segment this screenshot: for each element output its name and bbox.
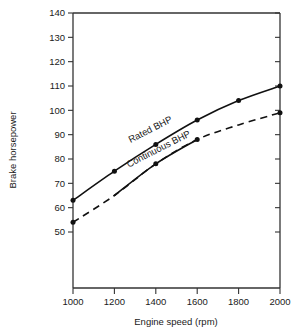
- chart-container: 5060708090100110120130140 10001200140016…: [0, 0, 297, 335]
- x-axis-title: Engine speed (rpm): [134, 316, 217, 327]
- y-tick-label: 120: [49, 56, 65, 67]
- x-tick-label: 1000: [62, 296, 83, 307]
- data-point: [195, 118, 200, 123]
- y-tick-label: 90: [54, 129, 65, 140]
- y-tick-label: 80: [54, 153, 65, 164]
- y-tick-label: 50: [54, 226, 65, 237]
- y-axis-title: Brake horsepower: [7, 111, 18, 188]
- y-tick-label: 60: [54, 202, 65, 213]
- data-point: [112, 169, 117, 174]
- data-point: [71, 220, 76, 225]
- y-tick-label: 100: [49, 105, 65, 116]
- data-point: [236, 98, 241, 103]
- data-point: [278, 84, 283, 89]
- y-tick-label: 110: [50, 80, 65, 91]
- data-point: [278, 110, 283, 115]
- y-tick-label: 70: [54, 178, 65, 189]
- x-tick-label: 1800: [228, 296, 249, 307]
- x-tick-label: 1600: [187, 296, 208, 307]
- chart-background: [0, 0, 297, 335]
- y-tick-label: 130: [49, 32, 65, 43]
- data-point: [71, 198, 76, 203]
- x-tick-label: 2000: [269, 296, 290, 307]
- y-tick-label: 140: [49, 7, 65, 18]
- x-tick-label: 1400: [145, 296, 166, 307]
- data-point: [153, 161, 158, 166]
- x-tick-label: 1200: [104, 296, 125, 307]
- line-chart: 5060708090100110120130140 10001200140016…: [0, 0, 297, 335]
- data-point: [195, 137, 200, 142]
